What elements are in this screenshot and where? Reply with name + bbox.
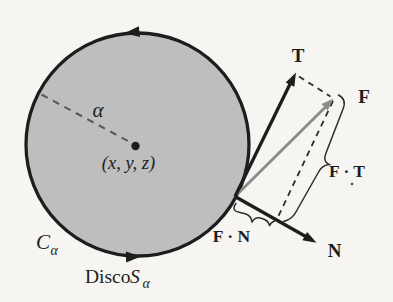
disc-caption-text: Disco bbox=[85, 266, 131, 287]
fn-projection-label: F · N bbox=[213, 226, 251, 246]
t-vector-label: T bbox=[292, 45, 305, 66]
stray-print-mark bbox=[351, 183, 354, 186]
radius-label: α bbox=[92, 98, 104, 122]
boundary-curve-label: C bbox=[36, 230, 51, 254]
center-point-label: (x, y, z) bbox=[102, 153, 155, 174]
n-vector-label: N bbox=[328, 240, 342, 261]
disc-caption-symbol: S bbox=[130, 266, 140, 287]
diagram-canvas: α (x, y, z) C α Disco S α T F N F · T F … bbox=[0, 0, 393, 302]
disc-caption-subscript: α bbox=[143, 276, 151, 291]
f-vector-label: F bbox=[358, 86, 370, 107]
stokes-disc-figure: α (x, y, z) C α Disco S α T F N F · T F … bbox=[0, 0, 393, 302]
center-point-dot bbox=[131, 142, 139, 150]
ft-projection-label: F · T bbox=[329, 161, 365, 181]
boundary-curve-label-subscript: α bbox=[51, 243, 59, 258]
